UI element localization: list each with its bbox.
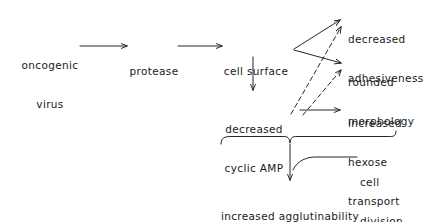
cell-surface-label: cell surface [218, 65, 294, 78]
protease-label: protease [128, 65, 180, 78]
node-oncogenic-virus: oncogenic virus [14, 33, 86, 137]
rounded-morphology-line-1: rounded [348, 76, 432, 89]
node-increased-agglutinability: increased agglutinability by plant lecti… [180, 184, 400, 222]
increased-hexose-line-1: increased [348, 117, 430, 130]
oncogenic-virus-line-1: oncogenic [14, 59, 86, 72]
node-cell-surface: cell surface [218, 39, 294, 104]
edge-cell-surface-to-morphology [294, 50, 341, 63]
diagram-canvas: oncogenic virus protease cell surface de… [0, 0, 432, 222]
decreased-adhesiveness-line-1: decreased [348, 33, 432, 46]
agglutinability-line-1: increased agglutinability [180, 210, 400, 222]
decreased-cyclic-amp-line-2: cyclic AMP [210, 162, 298, 175]
node-protease: protease [128, 39, 180, 104]
edge-cell-surface-to-adhesiveness [294, 20, 340, 49]
decreased-cyclic-amp-line-1: decreased [210, 123, 298, 136]
edge-cyclic-amp-to-morphology-dashed [303, 70, 341, 115]
edge-cyclic-amp-to-adhesiveness-dashed [291, 27, 341, 114]
oncogenic-virus-line-2: virus [14, 98, 86, 111]
